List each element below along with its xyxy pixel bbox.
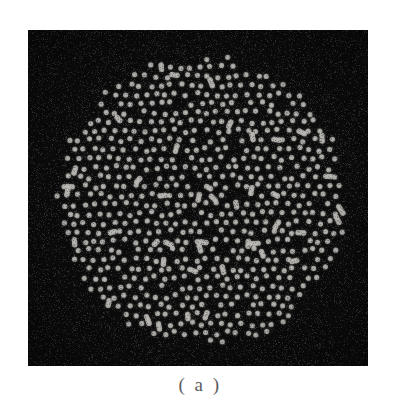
dark-field-image-panel — [28, 30, 368, 366]
figure-root: ( a ) — [0, 0, 400, 419]
figure-caption: ( a ) — [0, 374, 400, 396]
dot-pattern-canvas — [28, 30, 368, 366]
